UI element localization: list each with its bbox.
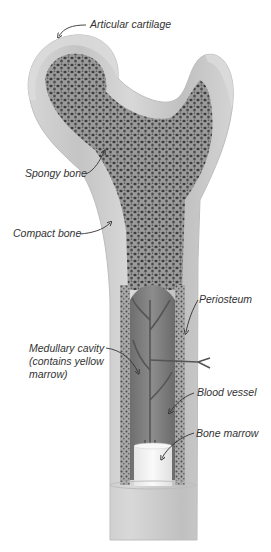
label-blood-vessel: Blood vessel bbox=[197, 386, 257, 399]
spongy-lining-left bbox=[120, 285, 130, 485]
bone-marrow bbox=[134, 443, 172, 486]
spongy-lining-right bbox=[175, 285, 185, 485]
bone-diagram bbox=[0, 0, 271, 552]
label-spongy-bone: Spongy bone bbox=[25, 167, 87, 180]
label-bone-marrow: Bone marrow bbox=[196, 427, 258, 440]
arrow-articular-cartilage bbox=[59, 25, 86, 36]
label-articular-cartilage: Articular cartilage bbox=[90, 18, 171, 31]
label-periosteum: Periosteum bbox=[199, 293, 252, 306]
label-compact-bone: Compact bone bbox=[13, 227, 81, 240]
label-medullary-cavity-3: marrow) bbox=[29, 368, 68, 381]
label-medullary-cavity-1: Medullary cavity bbox=[29, 342, 104, 355]
label-medullary-cavity-2: (contains yellow bbox=[29, 355, 104, 368]
